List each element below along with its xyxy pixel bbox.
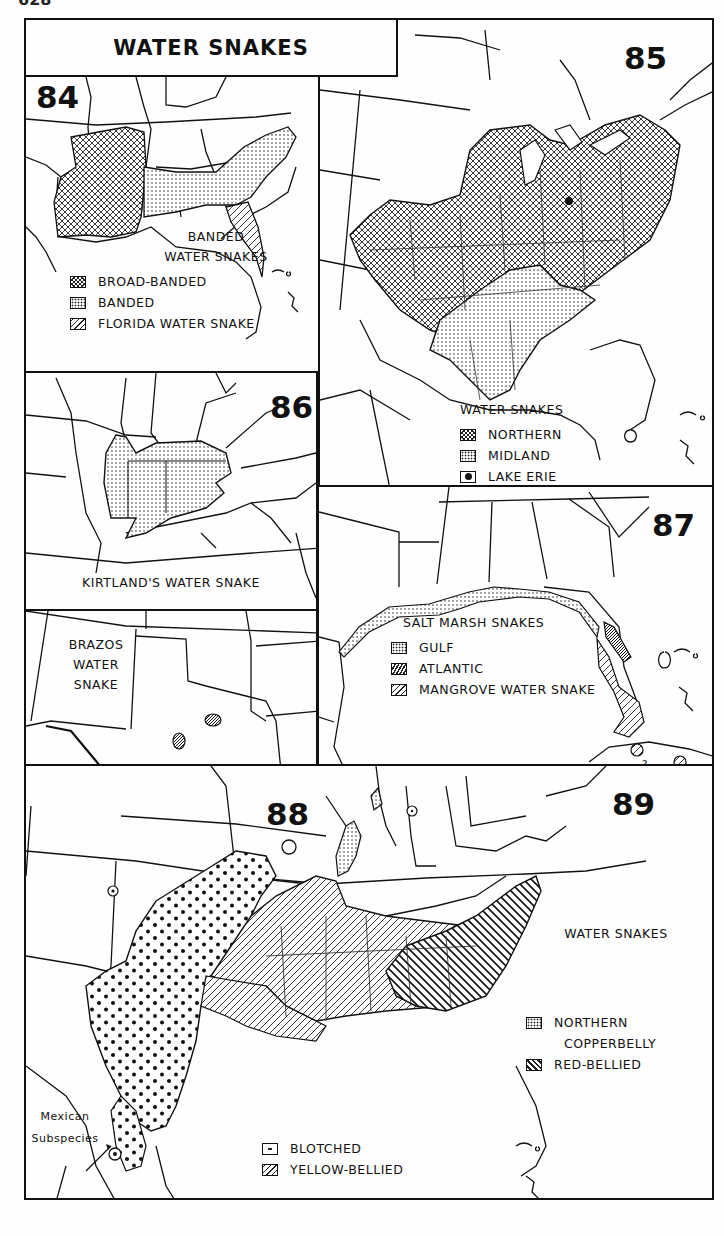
mexican-subspecies-label: Mexican Subspecies [30,1106,100,1150]
legend-item-yellow-bellied: YELLOW-BELLIED [262,1159,403,1180]
legend-item-banded: BANDED [70,292,255,313]
map-panel-87: ? 87 SALT MARSH SNAKES GULF ATLANTIC MAN… [317,485,714,766]
map-water-snakes-89 [26,766,714,1200]
legend-item-northern-copperbelly: NORTHERN [526,1012,656,1033]
legend-item-lake-erie: LAKE ERIE [460,466,562,487]
map-number-88: 88 [266,796,309,832]
map-panel-89: 89 WATER SNAKES NORTHERN COPPERBELLY RED… [24,764,714,1200]
diagonal-swatch-icon [262,1164,278,1176]
legend-item-broad-banded: BROAD-BANDED [70,271,255,292]
map-number-89: 89 [612,786,655,822]
cross-hatch-swatch-icon [460,429,476,441]
legend-item-florida-water-snake: FLORIDA WATER SNAKE [70,313,255,334]
map-caption-84: BANDED WATER SNAKES [126,227,306,267]
map-caption-85: WATER SNAKES [460,400,590,420]
map-number-84: 84 [36,79,79,115]
map-number-87: 87 [652,507,695,543]
reverse-diagonal-swatch-icon [526,1059,542,1071]
legend-89-bottom: BLOTCHED YELLOW-BELLIED [262,1138,403,1180]
map-caption-86: KIRTLAND'S WATER SNAKE [56,573,286,593]
cross-hatch-swatch-icon [70,276,86,288]
legend-89-right: NORTHERN COPPERBELLY RED-BELLIED [526,1012,656,1075]
map-panel-85: 85 WATER SNAKES NORTHERN MIDLAND LAKE ER… [318,18,714,487]
legend-84: BROAD-BANDED BANDED FLORIDA WATER SNAKE [70,271,255,334]
page-title: WATER SNAKES [113,36,309,60]
dot-swatch-icon [391,642,407,654]
map-caption-87: SALT MARSH SNAKES [403,613,603,633]
large-dot-swatch-icon [262,1143,278,1155]
legend-85: NORTHERN MIDLAND LAKE ERIE [460,424,562,487]
legend-item-northern-copperbelly-line2: COPPERBELLY [526,1033,656,1054]
legend-item-red-bellied: RED-BELLIED [526,1054,656,1075]
map-number-86: 86 [270,389,313,425]
legend-item-blotched: BLOTCHED [262,1138,403,1159]
legend-item-mangrove-water-snake: MANGROVE WATER SNAKE [391,679,595,700]
plate-title-box: WATER SNAKES [24,18,398,77]
map-number-85: 85 [624,40,667,76]
dot-swatch-icon [526,1017,542,1029]
legend-item-gulf: GULF [391,637,595,658]
page-number: 628 [18,0,51,9]
legend-item-northern: NORTHERN [460,424,562,445]
map-caption-88: BRAZOS WATER SNAKE [56,635,136,695]
dot-swatch-icon [70,297,86,309]
legend-item-atlantic: ATLANTIC [391,658,595,679]
map-panel-84: 84 BANDED WATER SNAKES BROAD-BANDED BAND… [24,75,320,373]
filled-circle-swatch-icon [460,471,476,483]
diagonal-swatch-icon [70,318,86,330]
dense-line-swatch-icon [391,663,407,675]
legend-item-midland: MIDLAND [460,445,562,466]
legend-87: GULF ATLANTIC MANGROVE WATER SNAKE [391,637,595,700]
map-caption-89: WATER SNAKES [546,924,686,944]
map-panel-86: 86 KIRTLAND'S WATER SNAKE [24,371,318,611]
dot-swatch-icon [460,450,476,462]
diagonal-swatch-icon [391,684,407,696]
